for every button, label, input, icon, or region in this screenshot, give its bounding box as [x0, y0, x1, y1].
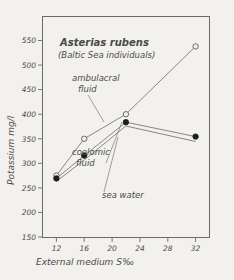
series-label-ambulacral-fluid-line2: fluid	[78, 84, 97, 94]
y-tick-label: 200	[22, 208, 37, 217]
series-label-coelomic-fluid-line2: fluid	[76, 158, 95, 168]
x-tick-label: 32	[191, 244, 201, 253]
data-point	[82, 136, 87, 141]
y-tick-label: 250	[22, 184, 37, 193]
x-tick-label: 12	[52, 244, 62, 253]
y-tick-label: 500	[22, 61, 37, 70]
chart-subtitle: (Baltic Sea individuals)	[58, 50, 155, 60]
y-axis-title: Potassium mg/l	[6, 115, 16, 185]
y-axis-tick-labels: 150 200 250 300 350 400 450 500 550	[22, 36, 37, 242]
y-tick-label: 550	[22, 36, 37, 45]
y-tick-label: 300	[22, 159, 37, 168]
x-axis-ticks	[56, 238, 195, 243]
series-label-sea-water: sea water	[102, 190, 144, 200]
leader-line-ambulacral	[88, 95, 104, 122]
data-point	[123, 112, 128, 117]
y-tick-label: 450	[22, 85, 37, 94]
series-label-coelomic-fluid: coelomic	[72, 147, 110, 157]
y-tick-label: 400	[22, 110, 37, 119]
x-tick-label: 28	[163, 244, 173, 253]
y-tick-label: 150	[22, 233, 37, 242]
potassium-salinity-chart: 150 200 250 300 350 400 450 500 550 12 1…	[0, 0, 234, 280]
data-point	[193, 44, 198, 49]
chart-title: Asterias rubens	[59, 37, 149, 48]
data-point	[54, 176, 59, 181]
x-axis-title: External medium S‰	[36, 257, 134, 267]
series-label-ambulacral-fluid: ambulacral	[72, 73, 120, 83]
y-axis-ticks	[38, 41, 43, 238]
x-tick-label: 16	[79, 244, 89, 253]
data-point	[123, 120, 128, 125]
x-axis-tick-labels: 12 16 20 24 28 32	[52, 244, 201, 253]
data-point	[193, 134, 198, 139]
leader-line-coelomic	[106, 122, 122, 163]
x-tick-label: 24	[135, 244, 145, 253]
leader-line-sea-water	[104, 137, 118, 192]
x-tick-label: 20	[107, 244, 117, 253]
y-tick-label: 350	[22, 135, 37, 144]
